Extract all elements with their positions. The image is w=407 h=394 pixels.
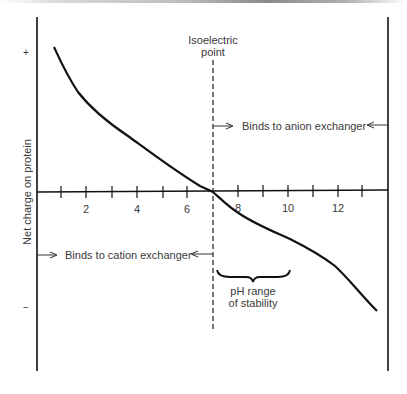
tick-label: 6	[184, 203, 190, 215]
svg-text:point: point	[201, 46, 225, 58]
anion-label: Binds to anion exchanger	[242, 120, 366, 132]
isoelectric-label: Isoelectric point	[188, 34, 238, 58]
positive-sign: +	[23, 47, 29, 58]
tick-label: 2	[83, 203, 89, 215]
tick-label: 12	[332, 202, 344, 214]
y-axis-label: Net charge on protein	[21, 139, 33, 245]
anion-annotation: Binds to anion exchanger	[213, 120, 388, 132]
net-charge-diagram: 2 4 6 8 10 12 Isoelectric point Binds to…	[0, 0, 407, 394]
svg-text:pH range: pH range	[230, 285, 275, 297]
stability-brace-icon	[217, 270, 290, 282]
tick-label: 4	[134, 203, 140, 215]
cation-label: Binds to cation exchanger	[65, 249, 192, 261]
negative-sign: −	[23, 302, 29, 313]
cation-annotation: Binds to cation exchanger	[37, 249, 213, 261]
net-charge-curve	[54, 47, 377, 311]
svg-text:of stability: of stability	[229, 297, 278, 309]
svg-text:Isoelectric: Isoelectric	[188, 34, 238, 46]
stability-label: pH range of stability	[229, 285, 278, 309]
tick-label: 10	[282, 202, 294, 214]
